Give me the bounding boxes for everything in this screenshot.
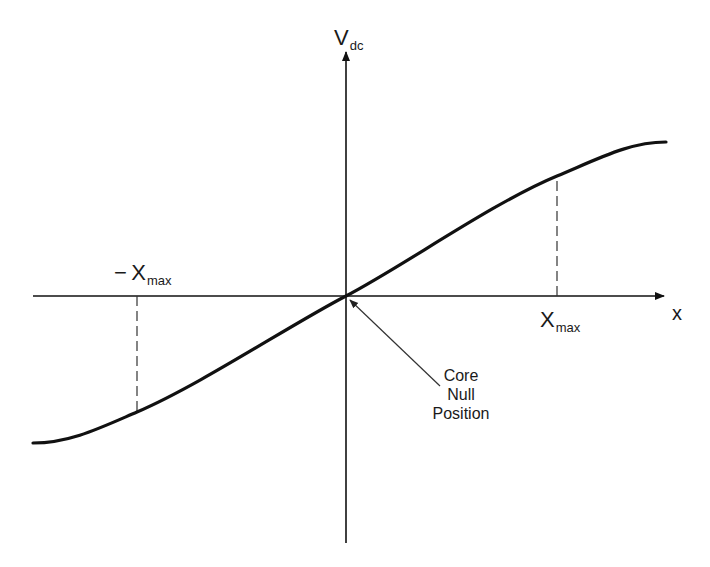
- neg-xmax-sub: max: [147, 273, 172, 288]
- neg-xmax-main: X: [131, 260, 146, 285]
- pos-xmax-sub: max: [556, 320, 581, 335]
- core-null-position-annotation: Core Null Position: [426, 366, 496, 423]
- lvdt-characteristic-diagram: [0, 0, 710, 567]
- x-axis-label: x: [672, 303, 682, 323]
- pos-xmax-main: X: [540, 307, 555, 332]
- annotation-line-2: Null: [426, 385, 496, 404]
- y-axis-label: Vdc: [334, 27, 363, 49]
- neg-xmax-prefix: −: [114, 260, 127, 285]
- y-axis-label-main: V: [334, 25, 349, 50]
- y-axis-label-sub: dc: [350, 38, 364, 53]
- output-curve: [33, 142, 666, 443]
- pos-xmax-label: Xmax: [540, 309, 580, 331]
- annotation-line-3: Position: [426, 404, 496, 423]
- annotation-line-1: Core: [426, 366, 496, 385]
- neg-xmax-label: − Xmax: [114, 262, 172, 284]
